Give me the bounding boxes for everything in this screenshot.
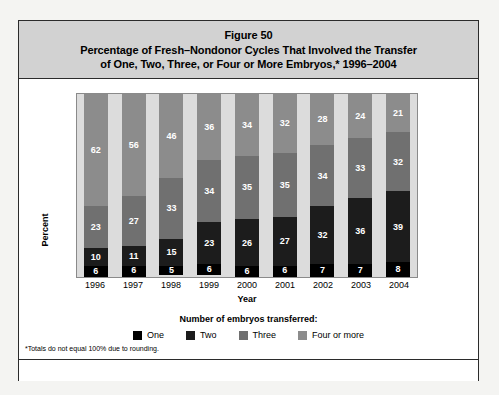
legend-swatch-icon	[239, 331, 248, 340]
bar-segment: 6	[235, 266, 259, 277]
bar-segment: 24	[348, 94, 372, 138]
bar-segment: 11	[122, 246, 146, 266]
bar-segment: 6	[122, 266, 146, 277]
bar-segment-value: 33	[166, 203, 176, 213]
bar-segment: 32	[386, 132, 410, 191]
bar-segment: 35	[235, 156, 259, 219]
bar-2002: 2834327	[310, 94, 334, 277]
bar-segment-value: 6	[93, 266, 98, 275]
x-axis-label: Year	[76, 294, 418, 304]
bar-segment-value: 23	[204, 238, 214, 248]
bar-segment-value: 5	[169, 266, 174, 275]
chart-area: Percent 62231065627116463315536342363435…	[19, 80, 478, 381]
bar-segment: 23	[84, 206, 108, 248]
bar-segment: 34	[310, 145, 334, 207]
bar-segment-value: 8	[395, 264, 400, 274]
bar-2000: 3435266	[235, 94, 259, 277]
bar-segment-value: 26	[242, 238, 252, 248]
legend-swatch-icon	[298, 331, 307, 340]
bar-segment: 33	[159, 178, 183, 238]
bar-segment: 26	[235, 219, 259, 266]
bar-segment-value: 7	[320, 265, 325, 275]
bar-segment: 10	[84, 248, 108, 266]
bar-segment: 7	[310, 264, 334, 277]
bar-segment: 27	[122, 196, 146, 245]
legend-item-one: One	[133, 330, 164, 340]
bar-segment: 5	[159, 266, 183, 275]
legend: OneTwoThreeFour or more	[19, 328, 478, 342]
bar-segment-value: 32	[280, 118, 290, 128]
figure-card: Figure 50 Percentage of Fresh–Nondonor C…	[18, 20, 479, 381]
x-tick-1997: 1997	[121, 280, 145, 290]
x-tick-2001: 2001	[273, 280, 297, 290]
legend-swatch-icon	[186, 331, 195, 340]
bar-segment: 36	[348, 198, 372, 264]
page-root: Figure 50 Percentage of Fresh–Nondonor C…	[0, 0, 499, 395]
bar-segment-value: 6	[207, 264, 212, 273]
x-tick-2004: 2004	[387, 280, 411, 290]
bar-segment-value: 15	[166, 247, 176, 257]
legend-item-label: Four or more	[312, 330, 364, 340]
bar-segment-value: 56	[129, 140, 139, 150]
bar-segment: 7	[348, 264, 372, 277]
bar-segment: 34	[197, 160, 221, 222]
bar-segment-value: 24	[355, 111, 365, 121]
bar-1998: 4633155	[159, 94, 183, 277]
bar-segment-value: 6	[131, 266, 136, 275]
bar-segment-value: 10	[91, 252, 101, 262]
bar-segment-value: 11	[129, 251, 139, 261]
figure-title-banner: Figure 50 Percentage of Fresh–Nondonor C…	[19, 21, 478, 79]
bar-2001: 3235276	[273, 94, 297, 277]
legend-item-label: Three	[253, 330, 277, 340]
bar-segment: 34	[235, 94, 259, 156]
bar-segment: 6	[84, 266, 108, 277]
bar-1997: 5627116	[122, 94, 146, 277]
bar-segment-value: 34	[317, 171, 327, 181]
legend-item-four-or-more: Four or more	[298, 330, 364, 340]
bar-segment-value: 46	[166, 131, 176, 141]
bar-segment-value: 27	[129, 216, 139, 226]
figure-title-line-2: of One, Two, Three, or Four or More Embr…	[100, 57, 396, 71]
bar-segment: 35	[273, 153, 297, 217]
bar-segment: 32	[310, 206, 334, 264]
bar-segment-value: 32	[317, 230, 327, 240]
x-tick-1998: 1998	[159, 280, 183, 290]
bar-segment-value: 39	[393, 222, 403, 232]
bar-segment: 56	[122, 94, 146, 196]
bar-segment-value: 33	[355, 163, 365, 173]
x-tick-1996: 1996	[83, 280, 107, 290]
bar-segment-value: 21	[393, 108, 403, 118]
bar-segment-value: 35	[280, 180, 290, 190]
bar-2003: 2433367	[348, 94, 372, 277]
bar-segment-value: 34	[204, 186, 214, 196]
x-tick-2003: 2003	[349, 280, 373, 290]
bar-segment-value: 23	[91, 222, 101, 232]
bar-segment-value: 28	[317, 114, 327, 124]
bar-segment-value: 34	[242, 120, 252, 130]
bar-segment: 6	[197, 264, 221, 275]
bar-segment: 62	[84, 94, 108, 206]
bar-segment-value: 6	[282, 266, 287, 275]
plot-panel: 6223106562711646331553634236343526632352…	[76, 93, 418, 278]
figure-number: Figure 50	[224, 28, 272, 42]
bar-2004: 2132398	[386, 94, 410, 277]
bar-segment: 15	[159, 239, 183, 266]
x-tick-2000: 2000	[235, 280, 259, 290]
bar-segment: 46	[159, 94, 183, 178]
x-tick-1999: 1999	[197, 280, 221, 290]
legend-item-two: Two	[186, 330, 217, 340]
bar-segment: 33	[348, 138, 372, 198]
legend-title: Number of embryos transferred:	[19, 314, 478, 324]
footnote: *Totals do not equal 100% due to roundin…	[25, 345, 159, 352]
legend-item-label: Two	[200, 330, 217, 340]
legend-item-three: Three	[239, 330, 277, 340]
bar-segment-value: 27	[280, 236, 290, 246]
bar-segment-value: 32	[393, 157, 403, 167]
bar-segment: 8	[386, 262, 410, 277]
bar-segment-value: 62	[91, 145, 101, 155]
bar-segment: 23	[197, 222, 221, 264]
y-axis-label: Percent	[40, 195, 50, 265]
bar-segment: 27	[273, 217, 297, 266]
bar-segment: 6	[273, 266, 297, 277]
bar-segment: 32	[273, 94, 297, 153]
